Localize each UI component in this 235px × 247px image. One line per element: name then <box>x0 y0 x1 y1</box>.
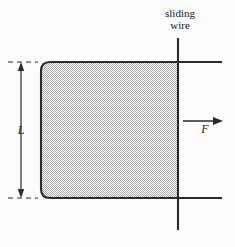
length-label-L: L <box>12 124 30 137</box>
sliding-wire-label-line1: sliding <box>150 8 210 20</box>
force-label-F: F <box>198 123 212 136</box>
dimension-arrowhead-up <box>18 62 24 71</box>
sliding-wire-label: sliding wire <box>150 8 210 31</box>
sliding-wire-label-line2: wire <box>150 20 210 32</box>
dimension-arrowhead-down <box>18 189 24 198</box>
shaded-loop-region <box>41 62 178 198</box>
physics-diagram-sliding-wire: sliding wire L F <box>0 0 235 247</box>
force-arrowhead <box>213 117 223 125</box>
